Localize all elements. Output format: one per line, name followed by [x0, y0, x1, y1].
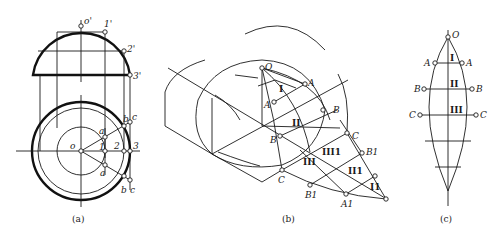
label-o-prime: o': [84, 16, 92, 26]
label-C-left: C: [409, 110, 416, 120]
label-II: II: [292, 118, 300, 128]
gore-left-edge: [429, 37, 448, 191]
caption-a: (a): [72, 214, 84, 224]
label-I-c: I: [450, 53, 454, 63]
label-A-outer: A: [307, 78, 315, 88]
label-C-inner: C: [278, 175, 285, 185]
label-B-inner: B: [269, 135, 277, 145]
label-I1: I1: [370, 182, 380, 192]
label-B-outer: B: [332, 105, 340, 115]
label-I: I: [279, 84, 283, 94]
label-A-inner: A: [263, 100, 271, 110]
label-3: 3: [133, 141, 139, 151]
label-o: o: [70, 141, 76, 151]
label-A1: A1: [340, 199, 353, 209]
label-A-right: A: [465, 58, 473, 68]
label-1-prime: 1': [104, 19, 112, 29]
label-A-left: A: [423, 58, 431, 68]
caption-c: (c): [440, 214, 452, 224]
label-O: O: [265, 62, 273, 72]
label-B-right: B: [475, 84, 483, 94]
label-B1-left: B1: [304, 190, 317, 200]
label-2: 2: [113, 141, 120, 151]
label-c-upper: c: [132, 112, 137, 122]
top-view: o 1 2 3 a a b c b c: [16, 95, 140, 207]
label-II1: II1: [348, 166, 363, 176]
label-1: 1: [99, 142, 105, 152]
label-b-lower: b: [121, 185, 127, 195]
label-II-c: II: [450, 79, 458, 89]
label-III-c: III: [450, 105, 463, 115]
label-B1-right: B1: [365, 147, 378, 157]
label-a-lower: a: [100, 168, 105, 178]
label-C-right: C: [480, 110, 487, 120]
label-b-upper: b: [123, 114, 129, 124]
label-C-outer: C: [352, 131, 359, 141]
label-O-c: O: [452, 30, 460, 40]
label-III1: III1: [322, 147, 341, 157]
label-c-lower: c: [130, 185, 135, 195]
panel-c: O A A B B C C I II III (c): [409, 30, 487, 224]
panel-b: O A A B B C C B1 B1 A1 I II III III1 II1…: [165, 26, 388, 224]
label-3-prime: 3': [133, 71, 141, 81]
hemisphere-outline: [33, 33, 130, 75]
caption-b: (b): [282, 214, 295, 224]
panel-a: o' 1' 2' 3' o 1 2: [16, 16, 141, 224]
hemisphere-development-diagram: o' 1' 2' 3' o 1 2: [0, 0, 498, 239]
label-B-left: B: [413, 84, 421, 94]
label-2-prime: 2': [126, 44, 135, 54]
label-III: III: [303, 157, 316, 167]
label-a-upper: a: [99, 126, 104, 136]
